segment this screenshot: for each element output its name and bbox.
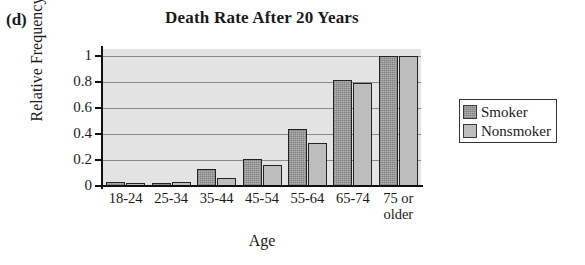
y-axis-tick-labels: 00.20.40.60.81 [28,0,92,265]
x-axis-tick-label: 45-54 [239,190,284,206]
bar-smoker-55-64 [288,129,307,186]
gridline [103,108,421,109]
x-axis-tick-label: 65-74 [330,190,375,206]
bar-smoker-35-44 [197,169,216,186]
bar-nonsmoker-75-or-older [399,56,418,186]
y-axis-tick-mark [95,133,101,135]
y-axis-tick-mark [95,159,101,161]
y-axis-tick-label: 0 [32,178,92,193]
legend-swatch-icon [463,124,477,138]
gridline [103,160,421,161]
x-axis-title: Age [103,232,421,250]
y-axis-tick-label: 0.2 [32,152,92,167]
x-axis-tick-label: 25-34 [148,190,193,206]
x-axis-tick-label: 75 or older [376,190,421,222]
bar-nonsmoker-65-74 [353,83,372,186]
legend-swatch-icon [463,105,477,119]
gridline [103,56,421,57]
legend-item-nonsmoker: Nonsmoker [463,121,551,140]
bar-smoker-65-74 [333,80,352,186]
y-axis-tick-mark [95,185,101,187]
y-axis-line [101,46,103,189]
y-axis-tick-label: 0.8 [32,74,92,89]
x-axis-tick-label: 55-64 [285,190,330,206]
y-axis-tick-label: 0.6 [32,100,92,115]
legend-item-smoker: Smoker [463,102,551,121]
x-axis-tick-labels: 18-2425-3435-4445-5455-6465-7475 or olde… [103,190,421,236]
y-axis-tick-mark [95,55,101,57]
legend-label: Smoker [481,104,528,120]
gridline [103,82,421,83]
bar-nonsmoker-55-64 [308,143,327,186]
panel-label: (d) [6,10,27,30]
x-axis-tick-label: 35-44 [194,190,239,206]
bar-smoker-45-54 [243,159,262,186]
x-axis-tick-label: 18-24 [103,190,148,206]
chart-title: Death Rate After 20 Years [103,8,421,28]
x-axis-line [101,185,423,187]
legend: SmokerNonsmoker [459,99,557,143]
y-axis-tick-label: 0.4 [32,126,92,141]
plot-area [103,49,421,186]
bar-smoker-75-or-older [379,56,398,186]
bar-nonsmoker-45-54 [263,165,282,186]
legend-label: Nonsmoker [481,123,551,139]
y-axis-tick-mark [95,81,101,83]
y-axis-tick-label: 1 [32,48,92,63]
gridline [103,134,421,135]
y-axis-tick-mark [95,107,101,109]
